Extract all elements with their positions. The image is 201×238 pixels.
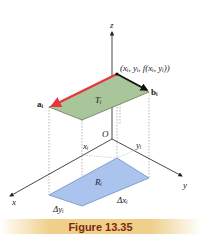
vector-a-label: aᵢ bbox=[37, 99, 44, 109]
tangent-patch-label: Tᵢ bbox=[95, 95, 102, 105]
x-axis-label: x bbox=[11, 197, 16, 207]
point-marker bbox=[115, 72, 118, 75]
y-i-label: yᵢ bbox=[135, 140, 142, 150]
y-axis-label: y bbox=[182, 180, 187, 190]
point-label: (xᵢ, yᵢ, f(xᵢ, yᵢ)) bbox=[120, 63, 170, 73]
x-i-label: xᵢ bbox=[82, 141, 89, 151]
figure-caption: Figure 13.35 bbox=[68, 221, 132, 233]
region-label: Rᵢ bbox=[94, 177, 102, 187]
delta-y-label: Δyᵢ bbox=[52, 204, 64, 214]
delta-x-label: Δxᵢ bbox=[116, 195, 128, 205]
figure-diagram: z (xᵢ, yᵢ, f(xᵢ, yᵢ)) bᵢ aᵢ Tᵢ O xᵢ yᵢ x… bbox=[0, 0, 201, 238]
origin-label: O bbox=[102, 129, 109, 139]
z-axis-label: z bbox=[109, 20, 114, 30]
vector-b-label: bᵢ bbox=[151, 87, 158, 97]
figure-caption-bar: Figure 13.35 bbox=[0, 219, 201, 234]
